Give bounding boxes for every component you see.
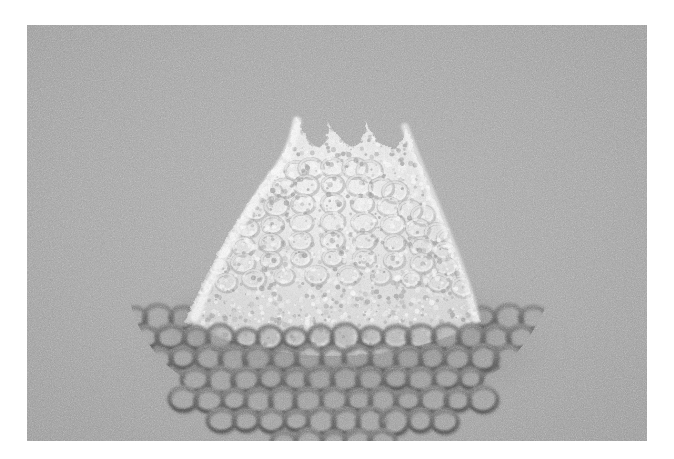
lattice-ring-hole	[300, 349, 319, 366]
cone-granule	[343, 226, 347, 230]
cone-granule	[246, 318, 249, 321]
cone-granule	[224, 279, 228, 283]
cone-granule	[379, 222, 384, 227]
cone-granule	[330, 207, 332, 209]
lattice-ring-hole	[287, 331, 303, 343]
cone-granule	[268, 297, 273, 302]
cone-granule	[381, 241, 385, 245]
cone-granule	[315, 300, 320, 305]
cone-granule	[220, 284, 222, 286]
cone-granule	[397, 175, 400, 178]
cone-granule	[386, 288, 388, 290]
cone-granule	[355, 297, 360, 302]
lattice-ring-hole	[288, 414, 304, 426]
cone-granule	[434, 255, 438, 259]
lattice-ring-hole	[198, 392, 218, 407]
cone-granule	[406, 277, 407, 278]
cone-granule	[352, 297, 354, 299]
cone-granule	[429, 238, 431, 240]
cone-granule	[386, 247, 389, 250]
cone-granule	[252, 293, 257, 298]
cone-granule	[313, 253, 316, 256]
cone-granule	[333, 210, 338, 215]
cone-granule	[324, 310, 329, 315]
cone-granule	[350, 196, 355, 201]
lattice-ring-hole	[211, 328, 230, 345]
cone-granule	[244, 237, 249, 242]
cone-granule	[390, 235, 392, 237]
cone-granule	[433, 243, 437, 247]
cone-granule	[359, 261, 362, 264]
cone-granule	[349, 213, 352, 216]
cone-granule	[272, 225, 277, 230]
cone-granule	[269, 248, 271, 250]
cone-granule	[300, 202, 304, 206]
cone-granule	[429, 210, 430, 211]
cone-granule	[429, 307, 431, 309]
cone-granule	[421, 265, 426, 270]
cone-granule	[342, 197, 344, 199]
cone-granule	[362, 184, 363, 185]
cone-granule	[394, 257, 399, 262]
cone-granule	[265, 253, 271, 259]
lattice-ring-hole	[423, 349, 440, 365]
lattice-ring-hole	[373, 391, 392, 408]
cone-granule	[370, 201, 372, 203]
cone-granule	[373, 305, 378, 310]
cone-granule	[279, 208, 282, 211]
cone-granule	[231, 302, 234, 305]
cone-granule	[277, 194, 281, 198]
cone-granule	[426, 298, 429, 301]
cone-granule	[230, 283, 234, 287]
cone-granule	[261, 295, 264, 298]
cone-granule	[370, 227, 372, 229]
cone-granule	[257, 268, 261, 272]
cone-granule	[229, 271, 234, 276]
cone-granule	[284, 248, 285, 249]
cone-granule	[441, 289, 445, 293]
cone-granule	[277, 312, 280, 315]
cone-granule	[408, 272, 414, 278]
cone-granule	[388, 240, 390, 242]
cone-granule	[398, 159, 402, 163]
cone-granule	[383, 271, 385, 273]
cone-granule	[218, 313, 221, 316]
cone-granule	[400, 226, 403, 229]
cone-granule	[398, 293, 404, 299]
cone-granule	[401, 199, 403, 201]
cone-granule	[248, 236, 250, 238]
cone-granule	[207, 299, 211, 303]
cone-granule	[421, 271, 426, 276]
cone-granule	[389, 257, 392, 260]
cone-granule	[421, 193, 424, 196]
cone-granule	[375, 278, 378, 281]
cone-granule	[430, 315, 433, 318]
cone-granule	[354, 270, 357, 273]
cone-granule	[234, 274, 237, 277]
cone-granule	[317, 223, 319, 225]
cone-granule	[404, 182, 407, 185]
cone-granule	[460, 306, 463, 309]
cone-granule	[443, 298, 445, 300]
cone-granule	[363, 300, 368, 305]
cone-granule	[303, 215, 305, 217]
cone-granule	[353, 207, 354, 208]
cone-granule	[298, 277, 301, 280]
cone-granule	[214, 300, 218, 304]
cone-granule	[299, 309, 302, 312]
micrograph-scene	[27, 25, 647, 441]
cone-granule	[430, 235, 433, 238]
cone-granule	[333, 236, 338, 241]
cone-granule	[400, 170, 403, 173]
cone-granule	[394, 172, 396, 174]
cone-granule	[307, 237, 308, 238]
cone-granule	[436, 315, 440, 319]
cone-granule	[292, 266, 295, 269]
cone-granule	[360, 162, 365, 167]
cone-granule	[277, 266, 280, 269]
cone-granule	[314, 202, 319, 207]
cone-granule	[266, 194, 268, 196]
cone-granule	[383, 240, 384, 241]
cone-granule	[390, 198, 392, 200]
cone-granule	[433, 305, 438, 310]
